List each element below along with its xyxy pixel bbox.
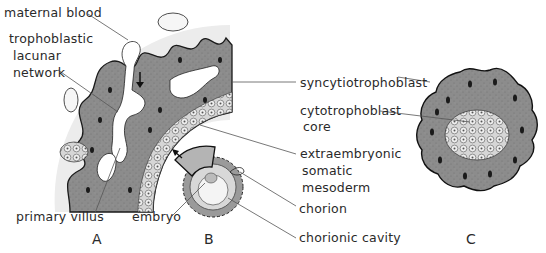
panel-label-c: C [466,231,476,247]
label-extraembryonic-somatic-mesoderm-1: extraembryonic [300,145,402,162]
panel-c-artwork [417,68,538,190]
panel-label-a: A [92,231,102,247]
label-cytotrophoblast-core-1: cytotrophoblast [300,102,401,119]
label-cytotrophoblast-core-2: core [303,118,331,135]
panel-label-b: B [204,231,214,247]
label-syncytiotrophoblast: syncytiotrophoblast [300,74,427,91]
label-primary-villus: primary villus [16,208,104,225]
label-chorionic-cavity: chorionic cavity [299,229,401,246]
label-trophoblastic-lacunar-network-1: trophoblastic [9,30,93,47]
label-extraembryonic-somatic-mesoderm-2: somatic [302,162,353,179]
label-embryo: embryo [132,208,181,225]
label-trophoblastic-lacunar-network-3: network [13,64,65,81]
label-trophoblastic-lacunar-network-2: lacunar [13,47,61,64]
label-maternal-blood: maternal blood [4,4,102,21]
label-extraembryonic-somatic-mesoderm-3: mesoderm [302,179,370,196]
label-chorion: chorion [299,200,347,217]
panel-b-artwork [172,146,244,217]
